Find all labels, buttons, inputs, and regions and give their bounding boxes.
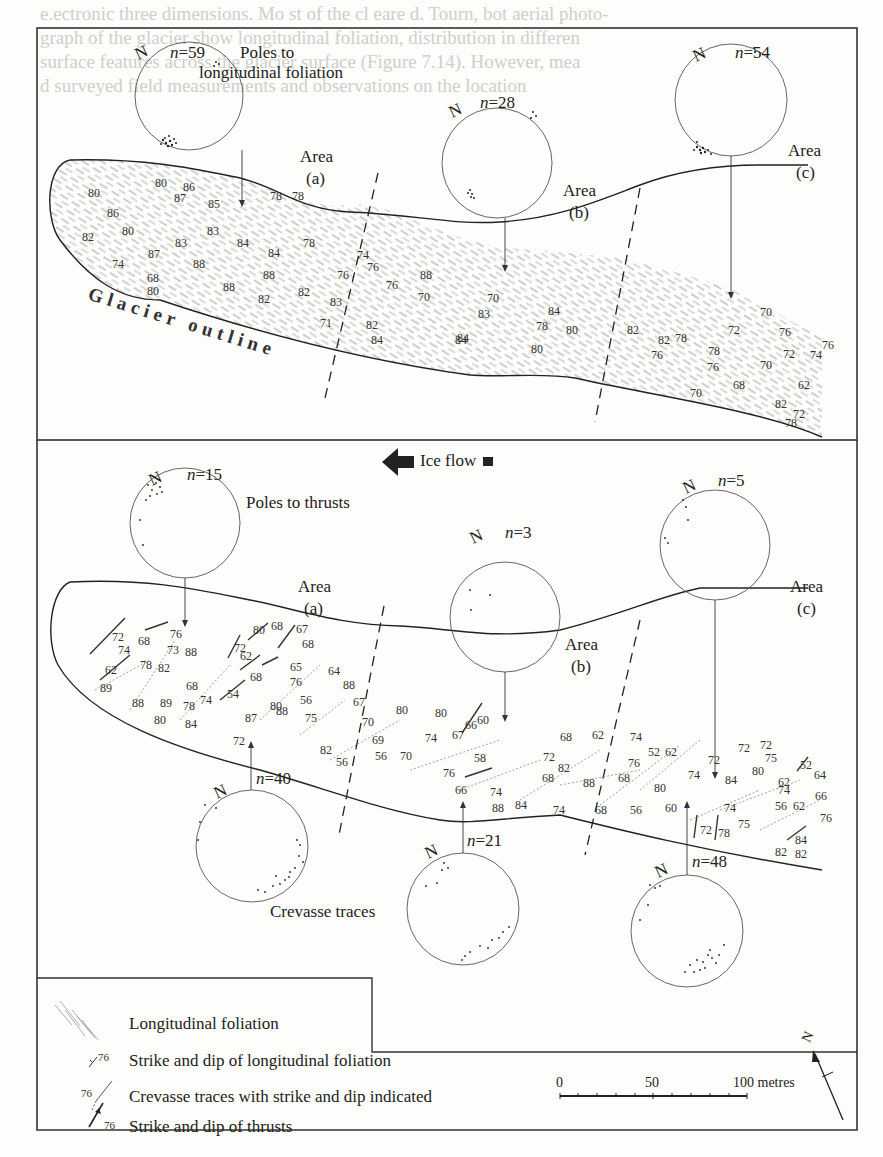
- n-value: =54: [744, 43, 771, 62]
- ice-flow-label: Ice flow: [420, 452, 476, 469]
- foliation-dip-value: 88: [420, 269, 432, 281]
- scale-bar: [560, 1093, 747, 1099]
- foliation-dip-value: 83: [207, 225, 219, 237]
- legend-foliation-value: 76: [98, 1052, 109, 1063]
- stereonet-thrusts-c: [660, 490, 770, 779]
- foliation-dip-value: 87: [148, 248, 160, 260]
- n-count-crevasse-c: n=48: [692, 853, 727, 870]
- foliation-dip-value: 78: [303, 237, 315, 249]
- n-value: =3: [514, 523, 532, 542]
- scale-tick-100: 100 metres: [733, 1076, 795, 1090]
- foliation-dip-value: 68: [733, 379, 745, 391]
- area-a-id-lower: (a): [304, 600, 323, 617]
- crevasse-dip-value: 88: [276, 705, 288, 717]
- foliation-dip-value: 78: [270, 190, 282, 202]
- thrust-dip-value: 78: [718, 827, 730, 839]
- poles-to-thrusts-label: Poles to thrusts: [246, 494, 350, 511]
- foliation-dip-value: 82: [627, 324, 639, 336]
- area-a-id-upper: (a): [306, 170, 325, 187]
- crevasse-dip-value: 75: [738, 818, 750, 830]
- foliation-dip-value: 86: [107, 207, 119, 219]
- foliation-dip-value: 80: [88, 187, 100, 199]
- crevasse-dip-value: 72: [233, 735, 245, 747]
- foliation-dip-value: 82: [82, 231, 94, 243]
- thrust-dip-value: 62: [240, 650, 252, 662]
- stereonet-crevasse-b: [407, 801, 519, 965]
- area-a-label-lower: Area: [298, 578, 331, 595]
- thrust-dip-value: 58: [474, 752, 486, 764]
- legend-strike-dip-foliation: Strike and dip of longitudinal foliation: [129, 1052, 391, 1069]
- n-symbol: n: [718, 471, 727, 490]
- crevasse-dip-value: 66: [815, 790, 827, 802]
- legend-strike-dip-thrusts: Strike and dip of thrusts: [129, 1118, 292, 1135]
- crevasse-dip-value: 67: [452, 729, 464, 741]
- upper-panel-title-line1: Poles to: [240, 44, 294, 61]
- foliation-dip-value: 82: [258, 293, 270, 305]
- foliation-dip-value: 88: [193, 258, 205, 270]
- foliation-dip-value: 72: [728, 324, 740, 336]
- foliation-dip-value: 70: [690, 387, 702, 399]
- thrust-dip-value: 84: [795, 834, 807, 846]
- crevasse-dip-value: 74: [490, 786, 502, 798]
- crevasse-dip-value: 82: [558, 762, 570, 774]
- foliation-dip-value: 85: [208, 198, 220, 210]
- n-value: =21: [476, 831, 503, 850]
- area-b-label-upper: Area: [563, 182, 596, 199]
- thrust-dip-value: 72: [760, 739, 772, 751]
- crevasse-dip-value: 60: [665, 802, 677, 814]
- crevasse-dip-value: 75: [765, 752, 777, 764]
- n-count-crevasse-a: n=40: [256, 770, 291, 787]
- thrust-dip-value: 52: [800, 759, 812, 771]
- figure-drawing: [0, 0, 883, 1157]
- crevasse-dip-value: 82: [775, 846, 787, 858]
- thrust-dip-value: 68: [138, 635, 150, 647]
- area-b-id-lower: (b): [571, 658, 591, 675]
- legend-crevasse-value: 76: [81, 1088, 92, 1099]
- foliation-dip-value: 76: [651, 349, 663, 361]
- area-c-label-upper: Area: [788, 142, 821, 159]
- foliation-dip-value: 70: [418, 291, 430, 303]
- thrust-dip-value: 62: [105, 664, 117, 676]
- legend-thrust-value: 76: [104, 1120, 115, 1131]
- crevasse-dip-value: 88: [132, 697, 144, 709]
- foliation-dip-value: 84: [548, 305, 560, 317]
- crevasse-dip-value: 88: [343, 679, 355, 691]
- crevasse-dip-value: 62: [793, 800, 805, 812]
- crevasse-dip-value: 52: [648, 746, 660, 758]
- crevasse-dip-value: 80: [396, 704, 408, 716]
- crevasse-dip-value: 74: [553, 804, 565, 816]
- crevasse-dip-value: 80: [752, 765, 764, 777]
- upper-glacier-outline: [50, 160, 822, 437]
- crevasse-dip-value: 74: [200, 694, 212, 706]
- foliation-dip-value: 84: [371, 334, 383, 346]
- crevasse-dip-value: 84: [185, 718, 197, 730]
- crevasse-dip-value: 56: [300, 694, 312, 706]
- foliation-dip-value: 76: [822, 339, 834, 351]
- crevasse-dip-value: 67: [353, 696, 365, 708]
- foliation-dip-value: 82: [775, 398, 787, 410]
- foliation-dip-value: 70: [487, 292, 499, 304]
- n-count-upper-c: n=54: [735, 44, 770, 61]
- foliation-dip-value: 76: [337, 269, 349, 281]
- foliation-dip-value: 76: [367, 261, 379, 273]
- thrust-dip-value: 68: [250, 671, 262, 683]
- n-symbol: n: [735, 43, 744, 62]
- crevasse-dip-value: 82: [795, 848, 807, 860]
- crevasse-dip-value: 56: [630, 804, 642, 816]
- n-value: =59: [179, 43, 206, 62]
- crevasse-dip-value: 76: [820, 812, 832, 824]
- foliation-dip-value: 83: [330, 296, 342, 308]
- legend-thrust-symbol-icon: [89, 1103, 103, 1127]
- n-symbol: n: [256, 769, 265, 788]
- foliation-dip-value: 82: [366, 319, 378, 331]
- thrust-dip-value: 76: [290, 676, 302, 688]
- crevasse-dip-value: 80: [154, 714, 166, 726]
- ice-flow-square: [483, 457, 493, 466]
- crevasse-dip-value: 84: [725, 774, 737, 786]
- crevasse-dip-value: 69: [372, 734, 384, 746]
- foliation-dip-value: 70: [760, 359, 772, 371]
- crevasse-dip-value: 68: [186, 680, 198, 692]
- north-arrow-icon: [812, 1050, 843, 1120]
- crevasse-dip-value: 56: [775, 800, 787, 812]
- foliation-dip-value: 78: [785, 417, 797, 429]
